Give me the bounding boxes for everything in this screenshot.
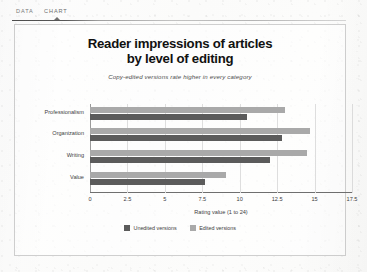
bar-unedited[interactable]	[90, 135, 282, 141]
chart-title-line1: Reader impressions of articles	[88, 36, 273, 51]
legend-item-unedited[interactable]: Unedited versions	[124, 225, 177, 231]
category-label: Organization	[52, 130, 84, 136]
x-tick-label: 10	[237, 196, 243, 202]
bar-unedited[interactable]	[90, 179, 205, 185]
chart-subtitle: Copy-edited versions rate higher in ever…	[15, 73, 345, 80]
chart-title-line2: by level of editing	[15, 52, 345, 67]
x-tick-label: 0	[88, 196, 91, 202]
bar-group: Organization	[90, 128, 352, 147]
bar-edited[interactable]	[90, 128, 310, 134]
bar-edited[interactable]	[90, 107, 285, 113]
chart-legend: Unedited versions Edited versions	[15, 225, 345, 231]
x-tick-label: 12.5	[272, 196, 283, 202]
chart-title: Reader impressions of articles by level …	[15, 37, 345, 67]
chart-card: Reader impressions of articles by level …	[14, 24, 346, 256]
bar-unedited[interactable]	[90, 114, 247, 120]
category-label: Writing	[67, 152, 84, 158]
tab-chart[interactable]: CHART	[44, 8, 68, 14]
legend-label-unedited: Unedited versions	[133, 225, 176, 231]
bar-edited[interactable]	[90, 172, 226, 178]
legend-label-edited: Edited versions	[199, 225, 236, 231]
tab-bar: DATA CHART	[0, 0, 367, 24]
bar-unedited[interactable]	[90, 157, 270, 163]
x-axis-label: Rating value (1 to 24)	[90, 209, 352, 215]
plot-area: 02.557.51012.51517.5ProfessionalismOrgan…	[90, 104, 352, 191]
x-axis-line	[90, 192, 352, 193]
tab-underline	[12, 20, 346, 21]
legend-item-edited[interactable]: Edited versions	[190, 225, 236, 231]
tab-data[interactable]: DATA	[16, 8, 34, 14]
x-tick-label: 2.5	[124, 196, 132, 202]
bar-group: Professionalism	[90, 107, 352, 126]
category-label: Professionalism	[45, 109, 84, 115]
active-tab-caret-icon	[54, 17, 60, 20]
x-tick-label: 7.5	[198, 196, 206, 202]
bar-group: Writing	[90, 150, 352, 169]
bar-edited[interactable]	[90, 150, 307, 156]
category-label: Value	[70, 174, 84, 180]
gridline	[352, 104, 353, 193]
x-tick-label: 15	[311, 196, 317, 202]
legend-swatch-unedited-icon	[124, 225, 130, 231]
x-tick-label: 17.5	[347, 196, 358, 202]
legend-swatch-edited-icon	[190, 225, 196, 231]
bar-group: Value	[90, 172, 352, 191]
x-tick-label: 5	[163, 196, 166, 202]
